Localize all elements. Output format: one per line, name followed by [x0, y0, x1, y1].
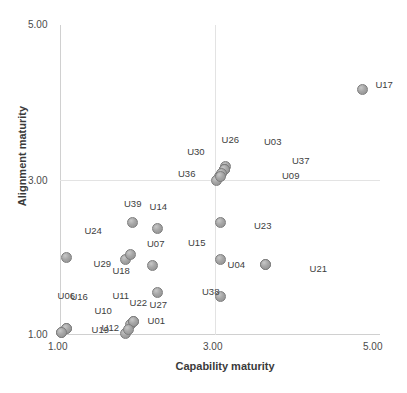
point-label-u18: U18: [112, 265, 129, 276]
point-label-u12: U12: [102, 322, 119, 333]
point-label-u38: U38: [202, 286, 219, 297]
data-point-u19[interactable]: [56, 327, 67, 338]
x-tick-label-1: 1.00: [48, 341, 67, 352]
point-label-u11: U11: [112, 290, 129, 301]
data-point-u23[interactable]: [215, 217, 226, 228]
point-label-u09: U09: [282, 170, 299, 181]
y-axis-title: Alignment maturity: [16, 86, 28, 226]
point-label-u01: U01: [148, 315, 165, 326]
point-label-u14: U14: [150, 201, 167, 212]
point-label-u16: U16: [70, 291, 87, 302]
point-label-u15: U15: [188, 237, 205, 248]
data-point-extra-1[interactable]: [215, 171, 226, 182]
point-label-u27: U27: [150, 299, 167, 310]
point-label-u39: U39: [124, 198, 141, 209]
data-point-u07[interactable]: [147, 260, 158, 271]
y-tick-label-1: 1.00: [28, 329, 47, 340]
point-label-u23: U23: [254, 220, 271, 231]
point-label-u21: U21: [310, 263, 327, 274]
point-label-u36: U36: [178, 168, 195, 179]
point-label-u29: U29: [94, 258, 111, 269]
x-tick-label-3: 3.00: [203, 341, 222, 352]
y-tick-label-5: 5.00: [28, 19, 47, 30]
y-tick-label-3: 3.00: [28, 175, 47, 186]
point-label-u04: U04: [228, 259, 245, 270]
data-point-u21[interactable]: [260, 259, 271, 270]
data-point-u39[interactable]: [127, 217, 138, 228]
data-point-u22[interactable]: [152, 287, 163, 298]
point-label-u22: U22: [130, 297, 147, 308]
point-label-u07: U07: [147, 238, 164, 249]
point-label-u17: U17: [375, 79, 392, 90]
data-point-extra-2[interactable]: [123, 324, 134, 335]
data-point-u18[interactable]: [125, 249, 136, 260]
point-label-u37: U37: [292, 155, 309, 166]
x-axis-title: Capability maturity: [140, 360, 310, 372]
scatter-chart: U17U26U03U30U36U37U09U39U14U23U24U07U29U…: [0, 0, 407, 393]
point-label-u26: U26: [222, 134, 239, 145]
point-label-u10: U10: [94, 305, 111, 316]
data-point-u14[interactable]: [152, 223, 163, 234]
data-point-u24[interactable]: [61, 252, 72, 263]
data-point-u15[interactable]: [215, 254, 226, 265]
point-label-u24: U24: [84, 225, 101, 236]
point-label-u30: U30: [187, 146, 204, 157]
x-tick-label-5: 5.00: [363, 341, 382, 352]
data-point-u17[interactable]: [357, 84, 368, 95]
plot-area: U17U26U03U30U36U37U09U39U14U23U24U07U29U…: [60, 25, 380, 335]
point-label-u03: U03: [264, 136, 281, 147]
